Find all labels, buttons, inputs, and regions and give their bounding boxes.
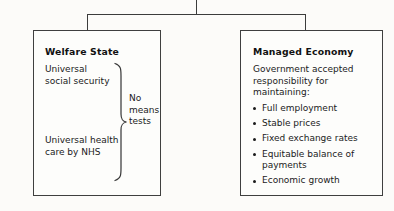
economy-bullet-label: Economic growth <box>262 175 340 185</box>
diagram-canvas: Welfare State Universalsocial security U… <box>0 0 394 211</box>
economy-bullet-item: Equitable balance of payments <box>253 149 379 172</box>
economy-bullet-item: Stable prices <box>253 118 379 130</box>
bullet-dot-icon <box>253 138 256 141</box>
connector-stem-line <box>196 0 197 15</box>
economy-bullet-label: Fixed exchange rates <box>262 133 358 143</box>
bullet-dot-icon <box>253 122 256 125</box>
node-managed-economy: Managed Economy Government accepted resp… <box>240 30 383 196</box>
economy-bullet-label: Stable prices <box>262 118 320 128</box>
bullet-dot-icon <box>253 107 256 110</box>
economy-lead-text: Government accepted responsibility for m… <box>253 64 377 99</box>
curly-brace-icon <box>112 62 130 182</box>
connector-drop-left <box>87 14 88 31</box>
economy-bullet-list: Full employmentStable pricesFixed exchan… <box>253 103 379 191</box>
node-title-managed-economy: Managed Economy <box>253 47 354 56</box>
bullet-dot-icon <box>253 180 256 183</box>
economy-bullet-item: Economic growth <box>253 175 379 187</box>
economy-bullet-item: Fixed exchange rates <box>253 133 379 145</box>
welfare-item-social-security: Universalsocial security <box>45 64 115 87</box>
bullet-dot-icon <box>253 153 256 156</box>
connector-drop-right <box>305 14 306 31</box>
economy-bullet-label: Equitable balance of payments <box>262 149 354 171</box>
connector-horizontal-bar <box>87 14 306 15</box>
node-welfare-state: Welfare State Universalsocial security U… <box>33 30 161 196</box>
economy-bullet-item: Full employment <box>253 103 379 115</box>
welfare-brace-label-no-means-tests: Nomeanstests <box>129 93 163 128</box>
economy-bullet-label: Full employment <box>262 103 337 113</box>
node-title-welfare-state: Welfare State <box>45 47 119 56</box>
